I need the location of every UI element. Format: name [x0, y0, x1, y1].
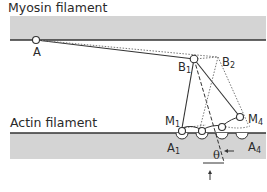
cross-bridge-diagram: Myosin filament Actin filament A B1 B2 M…	[0, 0, 267, 192]
angle-theta-label: θ	[213, 150, 220, 162]
label-A: A	[33, 47, 41, 59]
actin-filament-label: Actin filament	[10, 117, 97, 130]
point-M4	[237, 114, 244, 121]
label-M4: M4	[248, 114, 263, 127]
actin-filament	[10, 133, 266, 159]
label-A4: A4	[248, 142, 261, 155]
myosin-filament-label: Myosin filament	[8, 2, 107, 15]
label-A1: A1	[167, 143, 180, 156]
diagram-drawing	[0, 0, 267, 192]
myosin-filament	[10, 16, 266, 40]
bead-3	[219, 124, 226, 131]
point-B1	[190, 55, 198, 63]
label-M1: M1	[165, 116, 180, 129]
point-A	[33, 37, 40, 44]
bead-2	[199, 128, 206, 135]
label-B1: B1	[178, 62, 191, 75]
label-B2: B2	[222, 57, 235, 70]
